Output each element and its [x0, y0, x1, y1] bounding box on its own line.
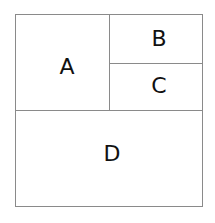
divider-horizontal-b-c — [109, 63, 203, 64]
region-c-label: C — [151, 75, 166, 97]
region-d-label: D — [104, 143, 121, 165]
divider-vertical-a-bc — [109, 14, 110, 110]
region-a-label: A — [59, 56, 74, 78]
divider-horizontal-top-d — [15, 110, 203, 111]
region-b-label: B — [151, 28, 166, 50]
